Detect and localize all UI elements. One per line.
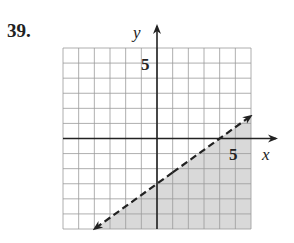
y-tick-label: 5	[141, 55, 150, 74]
y-axis-label: y	[131, 23, 141, 42]
x-tick-label: 5	[229, 145, 238, 164]
x-axis-label: x	[261, 145, 270, 164]
coordinate-plane: y x 5 5	[0, 0, 294, 243]
